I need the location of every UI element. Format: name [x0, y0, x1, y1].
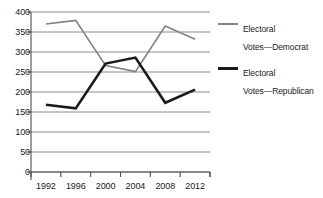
y-tick-label: 150 [4, 108, 30, 117]
y-tick-label: 50 [4, 148, 30, 157]
plot-svg [0, 0, 215, 198]
data-series-lines [46, 20, 195, 108]
legend-swatch-democrat-icon [218, 23, 238, 25]
y-tick-label: 300 [4, 48, 30, 57]
y-tick-label: 250 [4, 68, 30, 77]
legend-label-republican: Electoral Votes—Republican [243, 68, 314, 96]
x-tick-label: 2008 [155, 182, 175, 191]
plot-area [0, 0, 215, 198]
x-tick-label: 2012 [185, 182, 205, 191]
gridlines [31, 12, 210, 172]
legend-item-democrat: Electoral Votes—Democrat [218, 18, 323, 54]
y-tick-label: 200 [4, 88, 30, 97]
y-axis-tick-labels: 050100150200250300350400 [0, 0, 30, 198]
legend-label-democrat: Electoral Votes—Democrat [243, 24, 308, 52]
y-tick-label: 350 [4, 28, 30, 37]
x-tick-label: 1996 [66, 182, 86, 191]
x-tick-label: 2004 [126, 182, 146, 191]
y-tick-label: 400 [4, 8, 30, 17]
x-tick-label: 2000 [96, 182, 116, 191]
y-tick-label: 100 [4, 128, 30, 137]
legend-item-republican: Electoral Votes—Republican [218, 62, 323, 98]
chart-legend: Electoral Votes—Democrat Electoral Votes… [218, 18, 323, 106]
x-tick-label: 1992 [36, 182, 56, 191]
legend-swatch-republican-icon [218, 67, 238, 70]
electoral-votes-line-chart: 050100150200250300350400 199219962000200… [0, 0, 323, 198]
x-axis-tick-labels: 199219962000200420082012 [0, 176, 215, 194]
